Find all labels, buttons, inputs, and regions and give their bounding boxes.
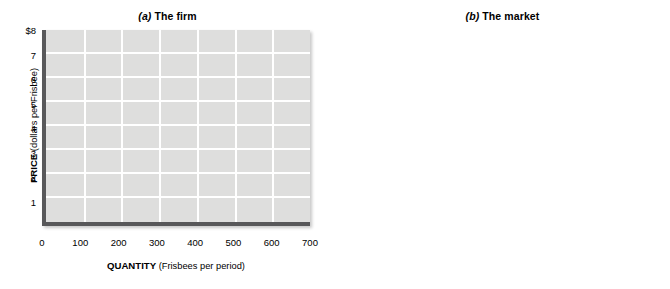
panel-a-x-label-200: 200 xyxy=(111,237,127,248)
gridline-v-500 xyxy=(235,30,237,222)
panel-a-y-axis-title-rest: (dollars per Frisbee) xyxy=(29,68,39,154)
panel-a-x-label-300: 300 xyxy=(149,237,165,248)
panel-b-title-text: The market xyxy=(479,10,539,22)
panel-a-x-label-400: 400 xyxy=(187,237,203,248)
panel-a-title-letter: (a) xyxy=(138,10,151,22)
panel-a-x-axis-title-bold: QUANTITY xyxy=(107,260,156,271)
panel-a-plot-wrap: $8 7 6 5 4 3 2 1 PRICE (dollars per Fris… xyxy=(42,30,310,226)
gridline-v-100 xyxy=(84,30,86,222)
panel-a-title: (a) The firm xyxy=(0,10,335,22)
panel-a-x-label-100: 100 xyxy=(72,237,88,248)
panel-a-x-axis-title: QUANTITY (Frisbees per period) xyxy=(107,260,245,271)
panel-a-y-label-8: $8 xyxy=(25,25,36,36)
panel-a-x-label-700: 700 xyxy=(302,237,318,248)
panel-a-plot-area xyxy=(42,30,310,226)
panel-a-y-axis-title-bold: PRICE xyxy=(28,154,39,183)
panel-b-the-market: (b) The market $8 7 6 5 xyxy=(335,0,670,289)
gridline-v-400 xyxy=(197,30,199,222)
panel-a-x-axis-title-rest: (Frisbees per period) xyxy=(156,261,245,271)
panel-a-y-axis-title: PRICE (dollars per Frisbee) xyxy=(28,51,39,201)
panel-a-x-label-600: 600 xyxy=(264,237,280,248)
panel-b-title-letter: (b) xyxy=(466,10,480,22)
panel-a-x-label-500: 500 xyxy=(225,237,241,248)
panel-b-title: (b) The market xyxy=(335,10,670,22)
figure-two-panel-frisbee-graphs: (a) The firm $8 7 xyxy=(0,0,670,289)
gridline-v-300 xyxy=(159,30,161,222)
panel-a-the-firm: (a) The firm $8 7 xyxy=(0,0,335,289)
gridline-v-600 xyxy=(272,30,274,222)
panel-a-title-text: The firm xyxy=(151,10,196,22)
gridline-v-200 xyxy=(121,30,123,222)
panel-a-x-label-0: 0 xyxy=(39,237,44,248)
